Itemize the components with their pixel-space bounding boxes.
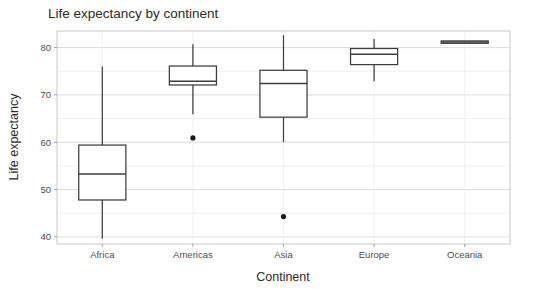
x-tick-label-americas: Americas (173, 249, 213, 260)
outlier-point (281, 214, 286, 219)
x-tick-label-asia: Asia (274, 249, 293, 260)
outlier-point (190, 135, 195, 140)
y-tick-label: 80 (40, 42, 51, 53)
box-iqr (169, 66, 216, 85)
y-tick-label: 60 (40, 137, 51, 148)
chart-canvas: Life expectancy by continent Life expect… (0, 0, 545, 289)
y-axis-title: Life expectancy (7, 93, 21, 181)
y-tick-label: 50 (40, 184, 51, 195)
boxplot-figure: Life expectancy by continent Life expect… (0, 0, 545, 289)
y-tick-label: 70 (40, 89, 51, 100)
x-axis-title: Continent (256, 270, 310, 284)
x-tick-label-europe: Europe (359, 249, 390, 260)
x-tick-label-africa: Africa (90, 249, 115, 260)
box-iqr (79, 145, 126, 200)
y-tick-label: 40 (40, 231, 51, 242)
boxplot-oceania (441, 41, 488, 43)
box-iqr (351, 49, 398, 65)
box-iqr (260, 70, 307, 117)
chart-title: Life expectancy by continent (48, 6, 219, 21)
x-tick-label-oceania: Oceania (447, 249, 483, 260)
